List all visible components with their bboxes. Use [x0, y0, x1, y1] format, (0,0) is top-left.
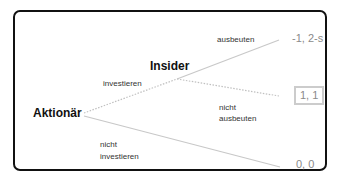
payoff-nicht-investieren: 0, 0 — [296, 158, 314, 170]
edge-label-nicht-investieren-line1: nicht — [100, 139, 117, 150]
game-tree-edges — [0, 0, 344, 182]
edge-label-ausbeuten: ausbeuten — [217, 34, 254, 45]
edge-label-nicht-ausbeuten-line1: nicht — [219, 102, 236, 113]
payoff-ausbeuten: -1, 2-s — [292, 32, 323, 44]
edge-label-nicht-ausbeuten-line2: ausbeuten — [219, 113, 256, 124]
payoff-nicht-ausbeuten: 1, 1 — [294, 86, 324, 105]
edge-nicht-ausbeuten — [177, 79, 279, 96]
edge-ausbeuten — [177, 40, 279, 79]
edge-label-nicht-investieren-line2: investieren — [100, 151, 139, 162]
edge-label-investieren: investieren — [103, 78, 142, 89]
node-insider: Insider — [150, 59, 189, 73]
node-aktionaer: Aktionär — [33, 106, 82, 120]
